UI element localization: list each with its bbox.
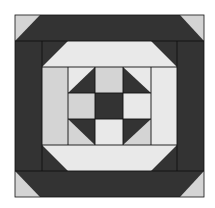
quilt-pieces <box>15 15 204 197</box>
center-cell-bottom-middle <box>95 119 123 145</box>
center-cell-center <box>95 93 123 119</box>
light-frame-right <box>151 67 177 145</box>
center-cell-top-middle <box>95 67 123 93</box>
center-cell-middle-right <box>123 93 151 119</box>
center-cell-middle-left <box>68 93 95 119</box>
light-frame-left <box>42 67 68 145</box>
quilt-block <box>0 0 215 208</box>
